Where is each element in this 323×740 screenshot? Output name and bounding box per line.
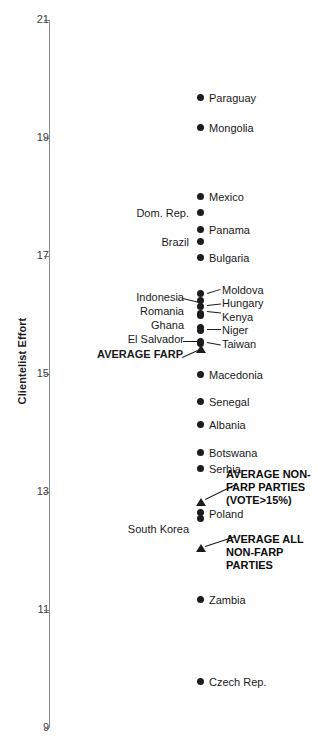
point-label-zambia: Zambia: [209, 595, 246, 606]
point-label-mexico: Mexico: [209, 192, 244, 203]
point-label-dom-rep: Dom. Rep.: [136, 208, 189, 219]
data-point-south-korea: [197, 515, 204, 522]
leader-line-kenya: [207, 311, 221, 313]
leader-line-average-farp: [182, 350, 198, 358]
y-tick-label-21: 21: [15, 14, 49, 25]
point-label-moldova: Moldova: [222, 285, 264, 296]
clientelist-effort-dot-plot: Clientelist Effort 21 19 17 15 13 11 9 P…: [0, 0, 323, 740]
y-tick-label-15: 15: [15, 368, 49, 379]
annotation-line-1: AVERAGE NON-: [226, 468, 311, 481]
point-label-average-farp: AVERAGE FARP: [97, 349, 183, 360]
data-point-panama: [197, 226, 204, 233]
data-point-serbia: [197, 465, 204, 472]
y-tick-label-17: 17: [15, 250, 49, 261]
data-point-macedonia: [197, 371, 204, 378]
annotation-line-2: NON-FARP: [226, 546, 304, 559]
y-tick-label-9: 9: [15, 722, 49, 733]
point-label-albania: Albania: [209, 420, 246, 431]
point-label-brazil: Brazil: [161, 237, 189, 248]
leader-line-moldova: [207, 289, 221, 294]
point-label-macedonia: Macedonia: [209, 370, 263, 381]
data-point-bulgaria: [197, 254, 204, 261]
point-label-botswana: Botswana: [209, 448, 257, 459]
annotation-line-3: PARTIES: [226, 559, 304, 572]
annotation-average-non-farp-parties: AVERAGE NON- FARP PARTIES (VOTE>15%): [226, 468, 311, 507]
point-label-niger: Niger: [222, 325, 248, 336]
annotation-line-2: FARP PARTIES: [226, 481, 311, 494]
annotation-average-all-non-farp-parties: AVERAGE ALL NON-FARP PARTIES: [226, 533, 304, 572]
leader-line-el-salvador: [183, 341, 198, 342]
y-tick-label-11: 11: [15, 604, 49, 615]
data-point-moldova: [197, 290, 204, 297]
data-point-botswana: [197, 449, 204, 456]
data-point-senegal: [197, 398, 204, 405]
data-point-mongolia: [197, 124, 204, 131]
point-label-romania: Romania: [140, 306, 184, 317]
point-label-panama: Panama: [209, 225, 250, 236]
point-label-kenya: Kenya: [222, 312, 253, 323]
point-label-czech-rep: Czech Rep.: [209, 677, 266, 688]
data-point-albania: [197, 421, 204, 428]
point-label-senegal: Senegal: [209, 397, 249, 408]
annotation-line-3: (VOTE>15%): [226, 494, 311, 507]
point-label-el-salvador: El Salvador: [128, 334, 184, 345]
y-axis-title: Clientelist Effort: [16, 296, 28, 426]
point-label-taiwan: Taiwan: [222, 339, 256, 350]
data-point-hungary: [197, 303, 204, 310]
point-label-poland: Poland: [209, 509, 243, 520]
y-tick-label-13: 13: [15, 486, 49, 497]
data-point-niger: [197, 327, 204, 334]
data-point-kenya: [197, 310, 204, 317]
leader-line-hungary: [207, 304, 221, 306]
y-tick-label-19: 19: [15, 132, 49, 143]
y-axis-line: [49, 20, 50, 728]
leader-line-taiwan: [207, 342, 221, 345]
leader-line-niger: [207, 329, 221, 330]
point-label-south-korea: South Korea: [128, 524, 189, 535]
data-point-brazil: [197, 238, 204, 245]
data-point-czech-rep: [197, 678, 204, 685]
point-label-hungary: Hungary: [222, 298, 264, 309]
point-label-mongolia: Mongolia: [209, 123, 254, 134]
point-label-paraguay: Paraguay: [209, 93, 256, 104]
data-point-paraguay: [197, 94, 204, 101]
point-label-ghana: Ghana: [151, 320, 184, 331]
data-point-average-farp: [196, 345, 206, 353]
data-point-mexico: [197, 193, 204, 200]
annotation-line-1: AVERAGE ALL: [226, 533, 304, 546]
data-point-zambia: [197, 596, 204, 603]
data-point-dom-rep: [197, 209, 204, 216]
point-label-bulgaria: Bulgaria: [209, 253, 249, 264]
point-label-indonesia: Indonesia: [136, 292, 184, 303]
